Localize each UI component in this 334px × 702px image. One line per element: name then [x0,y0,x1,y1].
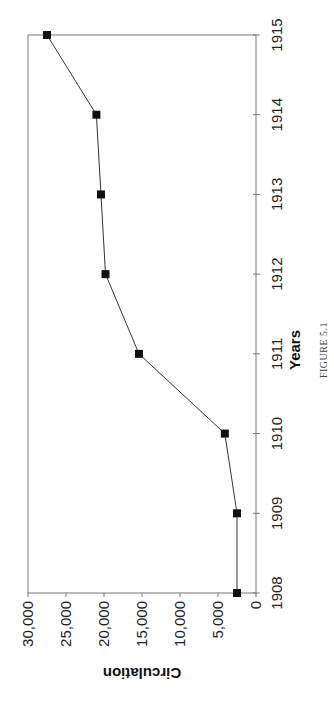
plot-frame [28,35,256,593]
year-tick-label: 1909 [268,497,285,530]
value-axis-ticks: 05,00010,00015,00020,00025,00030,000 [19,593,264,647]
year-tick-label: 1913 [268,178,285,211]
value-tick-label: 30,000 [19,601,36,647]
data-point-marker [135,350,143,358]
data-point-markers [43,31,241,597]
data-point-marker [233,509,241,517]
value-tick-label: 10,000 [171,601,188,647]
value-tick-label: 20,000 [95,601,112,647]
circulation-line-chart: 05,00010,00015,00020,00025,00030,000 190… [0,0,334,702]
year-tick-label: 1915 [268,18,285,51]
data-point-marker [233,589,241,597]
figure-caption: FIGURE 5.1 [318,322,329,378]
data-point-marker [102,270,110,278]
value-tick-label: 25,000 [57,601,74,647]
value-tick-label: 15,000 [133,601,150,647]
y-axis-title: Circulation [103,665,181,682]
data-point-marker [97,190,105,198]
year-axis-ticks: 19081909191019111912191319141915 [253,18,285,609]
x-axis-title: Years [286,330,303,370]
year-tick-label: 1908 [268,576,285,609]
value-tick-label: 5,000 [209,601,226,639]
value-tick-label: 0 [247,601,264,609]
circulation-series-line [47,35,237,593]
data-point-marker [43,31,51,39]
data-point-marker [221,430,229,438]
year-tick-label: 1912 [268,257,285,290]
year-tick-label: 1914 [268,98,285,131]
year-tick-label: 1910 [268,417,285,450]
data-point-marker [92,111,100,119]
year-tick-label: 1911 [268,338,285,370]
